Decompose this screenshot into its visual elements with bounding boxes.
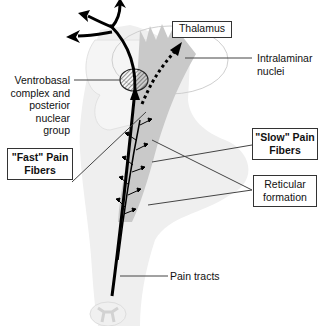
slow-line1: "Slow" Pain <box>253 131 317 144</box>
pain-tracts-text: Pain tracts <box>170 270 220 282</box>
cortex-branch-left <box>88 16 112 27</box>
slow-pain-fibers-box: "Slow" Pain Fibers <box>252 128 318 160</box>
ventrobasal-line3: posterior <box>2 99 70 112</box>
ventrobasal-line5: group <box>2 124 70 137</box>
slow-line2: Fibers <box>253 144 317 157</box>
spinal-cord-section <box>90 302 126 326</box>
thalamus-text: Thalamus <box>179 22 225 34</box>
ventrobasal-label: Ventrobasal complex and posterior nuclea… <box>2 74 70 137</box>
reticular-line1: Reticular <box>254 178 316 191</box>
intralaminar-line2: nuclei <box>257 65 312 78</box>
intralaminar-nuclei-label: Intralaminar nuclei <box>257 52 312 77</box>
pain-tracts-label: Pain tracts <box>170 270 220 283</box>
cortex-branch-up <box>112 5 120 27</box>
intralaminar-line1: Intralaminar <box>257 52 312 65</box>
ventrobasal-line1: Ventrobasal <box>2 74 70 87</box>
reticular-line2: formation <box>254 191 316 204</box>
fast-line2: Fibers <box>8 164 72 177</box>
reticular-formation-box: Reticular formation <box>253 175 317 207</box>
fast-pain-fibers-box: "Fast" Pain Fibers <box>7 148 73 180</box>
ventrobasal-line2: complex and <box>2 87 70 100</box>
fast-line1: "Fast" Pain <box>8 151 72 164</box>
ventrobasal-line4: nuclear <box>2 112 70 125</box>
thalamus-label: Thalamus <box>172 21 232 38</box>
